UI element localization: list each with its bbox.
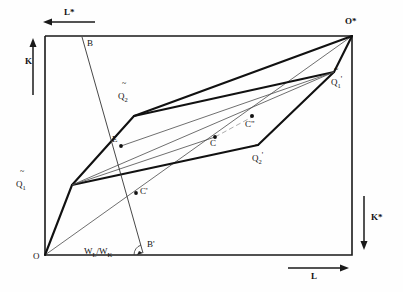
origin-label-Ostar: O*	[345, 17, 357, 26]
axis-arrow-Kstar	[361, 196, 368, 250]
label-Cprime: C'	[140, 187, 148, 196]
label-B: B	[87, 39, 93, 48]
label-q2-tilde-prime: ~ Q2'	[252, 147, 263, 165]
wage-denominator-sub: K	[108, 251, 113, 258]
wage-numerator: W	[84, 246, 93, 256]
label-wage-rental-ratio: WL/WK	[84, 240, 112, 258]
figure-canvas: K L* K* L O O* B B' E C C' C" ~ Q1 ~ Q2 …	[0, 0, 403, 292]
q2-tilde-sub: 2	[125, 96, 128, 103]
label-q1-tilde-prime: ~ Q1'	[331, 71, 342, 89]
tilde-accent-q1-prime: ~	[334, 66, 338, 74]
wage-rental-line-B-to-Bprime	[82, 37, 143, 253]
q1-tilde-base: Q	[16, 179, 23, 189]
q2-tilde-prime-base: Q	[252, 153, 259, 163]
label-Cdoubleprime: C"	[245, 120, 255, 129]
q2-tilde-base: Q	[118, 91, 125, 101]
q2-tilde-prime-mark: '	[262, 151, 263, 160]
label-q1-tilde: ~ Q1	[16, 173, 26, 191]
point-Cprime-dot	[134, 191, 138, 195]
label-Bprime: B'	[147, 240, 155, 249]
thin-chord-q1-to-q1-prime	[72, 72, 334, 185]
tilde-accent-q2-prime: ~	[255, 142, 259, 150]
axis-label-Kstar: K*	[371, 213, 383, 222]
axis-arrow-Lstar	[43, 19, 95, 26]
origin-label-O: O	[33, 252, 40, 261]
thin-chord-q1-to-C	[72, 117, 252, 185]
label-C: C	[210, 139, 216, 148]
point-Cdoubleprime-dot	[250, 114, 254, 118]
label-E: E	[112, 135, 118, 144]
q1-tilde-sub: 1	[23, 184, 26, 191]
tilde-accent-q2: ~	[122, 80, 126, 88]
axis-label-Lstar: L*	[64, 8, 75, 17]
edgeworth-box-svg	[0, 0, 403, 292]
axis-label-L: L	[311, 272, 317, 281]
tilde-accent-q1: ~	[20, 168, 24, 176]
axis-label-K: K	[25, 57, 32, 66]
label-q2-tilde: ~ Q2	[118, 85, 128, 103]
axis-arrow-L	[288, 265, 349, 272]
angle-arc-at-bprime	[134, 245, 143, 255]
wage-denominator: W	[99, 246, 108, 256]
point-E-dot	[119, 144, 123, 148]
isoquant-q2-prime-lower	[72, 36, 352, 185]
q1-tilde-prime-base: Q	[331, 77, 338, 87]
axis-arrow-K	[30, 38, 37, 95]
q1-tilde-prime-mark: '	[341, 75, 342, 84]
